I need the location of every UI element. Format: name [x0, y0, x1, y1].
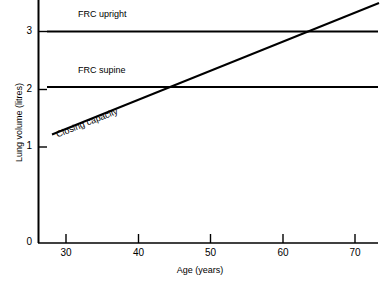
y-tick-label-0: 0 [12, 237, 32, 247]
x-tick-label-60: 60 [268, 248, 298, 258]
x-tick-label-70: 70 [340, 248, 370, 258]
chart-canvas [0, 0, 382, 286]
y-axis-title: Lung volume (litres) [15, 76, 24, 170]
x-axis-title: Age (years) [140, 266, 260, 275]
x-tick-label-40: 40 [124, 248, 154, 258]
frc-upright-label: FRC upright [78, 10, 127, 19]
frc-supine-label: FRC supine [78, 66, 126, 75]
x-tick-label-50: 50 [196, 248, 226, 258]
chart-figure: 3 2 1 0 30 40 50 60 70 Lung volume (litr… [0, 0, 382, 286]
x-tick-label-30: 30 [51, 248, 81, 258]
y-tick-label-3: 3 [12, 26, 32, 36]
